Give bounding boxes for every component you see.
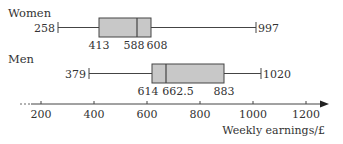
women-boxplot — [58, 18, 256, 37]
men-q3-value: 883 — [214, 85, 235, 98]
tick-label: 1200 — [292, 108, 320, 121]
men-q1-value: 614 — [138, 85, 159, 98]
women-q3-value: 608 — [147, 39, 168, 52]
men-box — [152, 64, 224, 83]
tick-label: 200 — [31, 108, 52, 121]
axis-arrow-icon — [320, 101, 329, 108]
men-boxplot — [89, 64, 261, 83]
tick-label: 600 — [137, 108, 158, 121]
tick-label: 1000 — [239, 108, 267, 121]
women-min-value: 258 — [34, 22, 55, 35]
men-max-value: 1020 — [263, 68, 291, 81]
x-axis-label: Weekly earnings/£ — [222, 124, 325, 137]
men-min-value: 379 — [65, 68, 86, 81]
women-box — [99, 18, 151, 37]
boxplot-chart: Women 258 997 413 588 608 Men 379 1020 6… — [0, 0, 343, 144]
men-median-value: 662.5 — [162, 85, 194, 98]
women-max-value: 997 — [258, 22, 279, 35]
women-label: Women — [8, 6, 52, 20]
women-q1-value: 413 — [89, 39, 110, 52]
x-axis: 200 400 600 800 1000 1200 Weekly earning… — [20, 101, 329, 138]
tick-label: 400 — [84, 108, 105, 121]
women-median-value: 588 — [124, 39, 145, 52]
tick-label: 800 — [190, 108, 211, 121]
men-label: Men — [8, 52, 35, 66]
